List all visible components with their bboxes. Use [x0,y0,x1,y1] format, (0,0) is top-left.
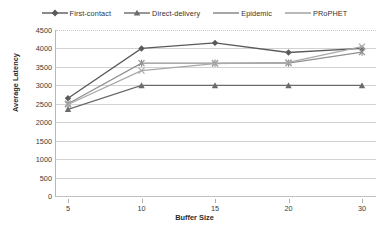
x-axis-tick-mark [142,199,143,203]
legend-key-cross-icon [285,8,311,18]
gridline [56,159,376,160]
gridline [56,104,376,105]
x-axis-tick-mark [362,199,363,203]
legend-item-direct-delivery: Direct-delivery [124,8,200,18]
legend-label-epidemic: Epidemic [241,9,272,18]
legend-item-prophet: PRoPHET [285,8,347,18]
x-axis-tick-label: 20 [284,204,292,213]
x-axis-tick-label: 10 [137,204,145,213]
x-axis-tick-mark [68,199,69,203]
gridline [56,178,376,179]
y-axis-tick-label: 1500 [12,136,52,145]
y-axis-title: Average Latency [11,35,20,131]
x-axis-tick-mark [289,199,290,203]
x-axis-tick-label: 15 [211,204,219,213]
gridline [56,122,376,123]
legend-key-asterisk-icon [213,8,239,18]
y-axis-tick-label: 1000 [12,155,52,164]
x-axis-title: Buffer Size [0,213,389,222]
y-axis-tick-label: 500 [12,173,52,182]
legend-key-diamond-icon [42,8,68,18]
legend-key-triangle-icon [124,8,150,18]
latency-line-chart: First-contact Direct-delivery Epidemic P… [0,0,389,227]
gridline [56,196,376,197]
legend-label-direct-delivery: Direct-delivery [152,9,200,18]
legend-label-prophet: PRoPHET [313,9,347,18]
gridline [56,48,376,49]
y-axis-tick-label: 4500 [12,26,52,35]
gridline [56,30,376,31]
x-axis-ticks: 510152030 [55,199,375,213]
legend-item-first-contact: First-contact [42,8,111,18]
x-axis-tick-label: 5 [66,204,70,213]
legend-label-first-contact: First-contact [70,9,111,18]
chart-legend: First-contact Direct-delivery Epidemic P… [0,8,389,18]
gridline [56,141,376,142]
x-axis-tick-label: 30 [358,204,366,213]
plot-area [55,30,376,197]
gridline [56,67,376,68]
gridline [56,85,376,86]
legend-item-epidemic: Epidemic [213,8,272,18]
y-axis-tick-label: 0 [12,192,52,201]
x-axis-tick-mark [215,199,216,203]
